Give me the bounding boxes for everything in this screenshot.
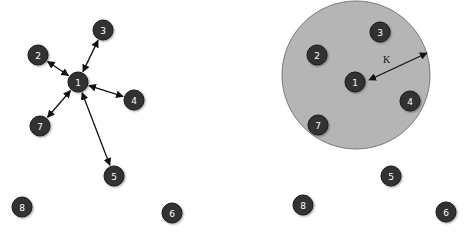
edge-1-5 bbox=[82, 93, 110, 166]
node-5: 5 bbox=[104, 166, 124, 186]
node-label: 6 bbox=[169, 209, 175, 219]
node-7: 7 bbox=[308, 115, 328, 135]
node-label: 8 bbox=[19, 203, 25, 213]
edge-1-2 bbox=[48, 61, 69, 75]
left-panel-graph: 12345678 bbox=[12, 20, 182, 223]
node-label: 2 bbox=[35, 51, 41, 61]
node-8: 8 bbox=[12, 197, 32, 217]
node-1: 1 bbox=[345, 72, 365, 92]
node-4: 4 bbox=[400, 91, 420, 111]
node-1: 1 bbox=[68, 72, 88, 92]
node-8: 8 bbox=[293, 195, 313, 215]
node-4: 4 bbox=[124, 90, 144, 110]
node-label: 1 bbox=[75, 78, 81, 88]
node-label: 2 bbox=[314, 51, 320, 61]
radius-label-k: K bbox=[383, 54, 391, 65]
node-label: 4 bbox=[131, 96, 137, 106]
node-label: 7 bbox=[315, 121, 321, 131]
node-label: 8 bbox=[300, 201, 306, 211]
node-label: 1 bbox=[352, 78, 358, 88]
node-3: 3 bbox=[93, 20, 113, 40]
node-2: 2 bbox=[307, 45, 327, 65]
node-label: 6 bbox=[443, 208, 449, 218]
diagram-canvas: K 12345678 12345678 bbox=[0, 0, 465, 234]
node-label: 3 bbox=[100, 26, 106, 36]
node-label: 5 bbox=[388, 172, 394, 182]
node-label: 3 bbox=[377, 28, 383, 38]
node-label: 7 bbox=[37, 122, 43, 132]
node-6: 6 bbox=[162, 203, 182, 223]
node-5: 5 bbox=[381, 166, 401, 186]
node-label: 4 bbox=[407, 97, 413, 107]
node-6: 6 bbox=[436, 202, 456, 222]
node-3: 3 bbox=[370, 22, 390, 42]
left-panel-edges bbox=[48, 40, 124, 165]
node-2: 2 bbox=[28, 45, 48, 65]
node-7: 7 bbox=[30, 116, 50, 136]
edge-1-3 bbox=[83, 40, 98, 71]
edge-1-4 bbox=[89, 86, 123, 97]
edge-1-7 bbox=[48, 91, 71, 118]
node-label: 5 bbox=[111, 172, 117, 182]
